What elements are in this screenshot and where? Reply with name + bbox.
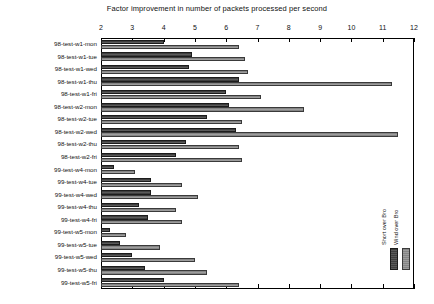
bar-99-test-w5-wed-series-0	[101, 253, 132, 257]
bar-98-test-w2-wed-series-1	[101, 132, 398, 136]
bar-99-test-w5-tue-series-0	[101, 241, 120, 245]
bar-99-test-w5-fri-series-0	[101, 278, 164, 282]
x-tick-label-11: 11	[379, 24, 386, 31]
bar-99-test-w4-mon-series-0	[101, 165, 114, 169]
bar-98-test-w1-fri-series-0	[101, 90, 226, 94]
bar-99-test-w5-thu-series-1	[101, 270, 207, 274]
chart-legend: Short over Bro Wind over Bro	[389, 195, 413, 270]
bar-98-test-w1-wed-series-1	[101, 70, 248, 74]
bar-98-test-w2-wed-series-0	[101, 128, 236, 132]
x-tick-label-4: 4	[162, 24, 166, 31]
bar-98-test-w2-mon-series-1	[101, 107, 304, 111]
x-tick-label-8: 8	[287, 24, 291, 31]
bar-99-test-w5-fri-series-1	[101, 283, 239, 287]
category-label-99-test-w4-mon: 99-test-w4-mon	[54, 167, 97, 173]
x-tick-label-12: 12	[410, 24, 418, 31]
x-tick-mark-bottom-7	[258, 284, 259, 289]
bar-99-test-w4-wed-series-0	[101, 190, 151, 194]
bar-99-test-w5-tue-series-1	[101, 245, 160, 249]
category-label-98-test-w1-mon: 98-test-w1-mon	[54, 41, 97, 47]
bar-98-test-w2-tue-series-0	[101, 115, 207, 119]
bar-98-test-w1-wed-series-0	[101, 65, 189, 69]
category-label-98-test-w2-mon: 98-test-w2-mon	[54, 104, 97, 110]
x-tick-mark-top-4	[164, 38, 165, 42]
bar-chart: Factor improvement in number of packets …	[0, 0, 434, 304]
bar-98-test-w1-thu-series-0	[101, 77, 239, 81]
category-label-98-test-w1-thu: 98-test-w1-thu	[57, 79, 97, 85]
x-tick-mark-top-12	[414, 38, 415, 42]
x-tick-mark-bottom-12	[414, 284, 415, 289]
x-tick-label-3: 3	[130, 24, 134, 31]
legend-entry-1: Wind over Bro	[401, 195, 412, 270]
x-tick-mark-top-5	[195, 38, 196, 42]
bar-99-test-w4-mon-series-1	[101, 170, 135, 174]
bar-98-test-w1-fri-series-1	[101, 95, 261, 99]
bar-99-test-w4-fri-series-1	[101, 220, 182, 224]
x-tick-mark-top-8	[289, 38, 290, 42]
bar-98-test-w2-fri-series-1	[101, 158, 242, 162]
bar-99-test-w5-mon-series-1	[101, 233, 126, 237]
x-tick-mark-top-6	[226, 38, 227, 42]
bar-98-test-w2-tue-series-1	[101, 120, 242, 124]
x-tick-label-2: 2	[99, 24, 103, 31]
bar-99-test-w4-tue-series-1	[101, 183, 182, 187]
x-tick-mark-top-9	[320, 38, 321, 42]
x-tick-mark-top-7	[258, 38, 259, 42]
category-label-99-test-w4-thu: 99-test-w4-thu	[57, 204, 97, 210]
x-axis-tick-labels: 23456789101112	[0, 24, 434, 36]
bar-98-test-w2-mon-series-0	[101, 103, 229, 107]
x-tick-label-9: 9	[318, 24, 322, 31]
bar-98-test-w1-thu-series-1	[101, 82, 392, 86]
category-label-99-test-w5-wed: 99-test-w5-wed	[55, 254, 97, 260]
category-label-99-test-w5-mon: 99-test-w5-mon	[54, 229, 97, 235]
bar-98-test-w1-tue-series-0	[101, 52, 192, 56]
x-tick-mark-bottom-9	[320, 284, 321, 289]
x-tick-mark-top-10	[351, 38, 352, 42]
category-label-99-test-w4-fri: 99-test-w4-fri	[61, 217, 97, 223]
category-label-98-test-w2-thu: 98-test-w2-thu	[57, 141, 97, 147]
plot-area	[101, 38, 414, 289]
x-tick-label-6: 6	[224, 24, 228, 31]
category-label-99-test-w5-thu: 99-test-w5-thu	[57, 267, 97, 273]
bar-99-test-w4-fri-series-0	[101, 215, 148, 219]
x-tick-label-7: 7	[256, 24, 260, 31]
bar-98-test-w2-fri-series-0	[101, 153, 176, 157]
bar-98-test-w2-thu-series-1	[101, 145, 239, 149]
bar-98-test-w1-mon-series-0	[101, 40, 164, 44]
category-label-98-test-w2-fri: 98-test-w2-fri	[61, 154, 97, 160]
legend-label-0: Short over Bro	[380, 193, 389, 245]
category-label-99-test-w5-tue: 99-test-w5-tue	[57, 242, 97, 248]
bar-99-test-w4-tue-series-0	[101, 178, 151, 182]
category-label-99-test-w4-wed: 99-test-w4-wed	[55, 192, 97, 198]
x-tick-label-5: 5	[193, 24, 197, 31]
chart-title: Factor improvement in number of packets …	[0, 4, 434, 13]
category-label-98-test-w1-tue: 98-test-w1-tue	[57, 54, 97, 60]
bar-99-test-w5-wed-series-1	[101, 258, 195, 262]
category-label-99-test-w5-fri: 99-test-w5-fri	[61, 280, 97, 286]
x-tick-mark-top-11	[383, 38, 384, 42]
bar-98-test-w1-mon-series-1	[101, 45, 239, 49]
category-label-98-test-w1-wed: 98-test-w1-wed	[55, 66, 97, 72]
category-label-99-test-w4-tue: 99-test-w4-tue	[57, 179, 97, 185]
x-tick-mark-bottom-8	[289, 284, 290, 289]
bar-98-test-w1-tue-series-1	[101, 57, 245, 61]
legend-swatch-0	[390, 248, 398, 270]
bar-99-test-w4-wed-series-1	[101, 195, 198, 199]
legend-label-1: Wind over Bro	[392, 193, 401, 245]
bar-99-test-w4-thu-series-0	[101, 203, 139, 207]
category-label-98-test-w2-wed: 98-test-w2-wed	[55, 129, 97, 135]
x-tick-label-10: 10	[347, 24, 355, 31]
bar-99-test-w5-mon-series-0	[101, 228, 110, 232]
bar-99-test-w4-thu-series-1	[101, 208, 176, 212]
category-label-98-test-w2-tue: 98-test-w2-tue	[57, 116, 97, 122]
bar-98-test-w2-thu-series-0	[101, 140, 186, 144]
x-tick-mark-bottom-11	[383, 284, 384, 289]
legend-swatch-1	[402, 248, 410, 270]
x-tick-mark-bottom-10	[351, 284, 352, 289]
category-label-98-test-w1-fri: 98-test-w1-fri	[61, 91, 97, 97]
bar-99-test-w5-thu-series-0	[101, 266, 145, 270]
